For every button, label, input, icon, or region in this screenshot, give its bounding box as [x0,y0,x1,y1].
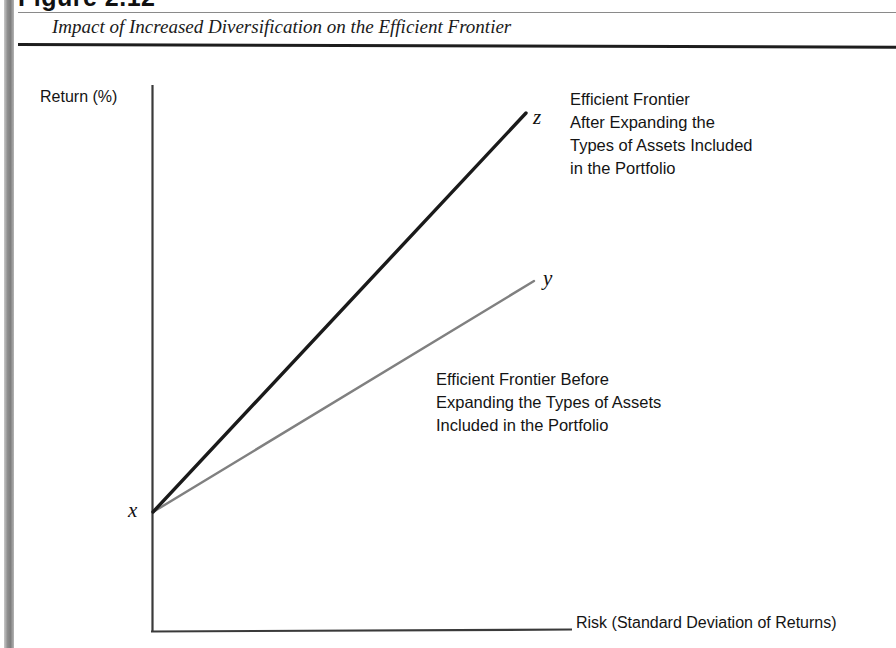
efficient-frontier-chart [0,0,896,648]
annotation-new-frontier: Efficient Frontier After Expanding the T… [570,88,753,180]
point-label-z: z [533,105,541,130]
new-efficient-frontier-line [153,113,526,512]
y-axis-label: Return (%) [40,86,117,107]
chart-axes [151,85,572,632]
point-label-y: y [543,266,552,291]
frontier-lines [153,113,534,512]
x-axis [151,630,572,632]
point-label-x: x [128,498,137,523]
figure-page: Figure 2.12 Impact of Increased Diversif… [0,0,896,648]
x-axis-label: Risk (Standard Deviation of Returns) [576,612,837,633]
annotation-old-frontier: Efficient Frontier Before Expanding the … [436,368,661,437]
